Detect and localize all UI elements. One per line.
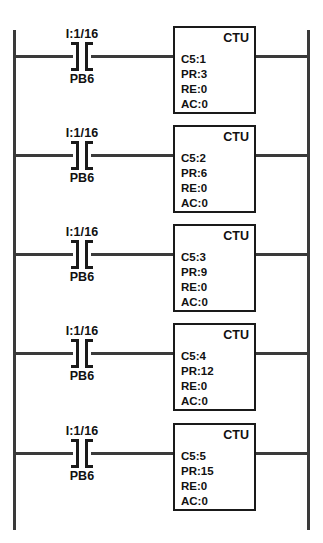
rung-wire-middle — [91, 452, 174, 455]
rung-wire-right — [255, 55, 308, 58]
ctu-counter-value: C5:5 — [181, 449, 214, 464]
ladder-rung: I:1/16 PB6 CTU C5:2 PR:6 RE:0 AC:0 — [0, 130, 323, 230]
ladder-rung: I:1/16 PB6 CTU C5:5 PR:15 RE:0 AC:0 — [0, 428, 323, 528]
contact-tick-top-left — [71, 439, 77, 442]
ctu-parameter-list: C5:1 PR:3 RE:0 AC:0 — [181, 52, 208, 112]
ctu-type-label: CTU — [223, 130, 249, 144]
rung-wire-left — [14, 352, 73, 355]
ctu-parameter-list: C5:4 PR:12 RE:0 AC:0 — [181, 349, 214, 409]
contact-tick-bottom-right — [87, 465, 93, 468]
contact-tick-bottom-right — [87, 167, 93, 170]
rung-wire-right — [255, 352, 308, 355]
contact-tick-top-left — [71, 240, 77, 243]
ctu-counter-value: C5:2 — [181, 151, 208, 166]
contact-name-label: PB6 — [0, 171, 164, 185]
rung-wire-left — [14, 253, 73, 256]
ctu-parameter-list: C5:5 PR:15 RE:0 AC:0 — [181, 449, 214, 509]
contact-address-label: I:1/16 — [0, 424, 164, 438]
contact-tick-top-right — [87, 141, 93, 144]
rung-wire-right — [255, 154, 308, 157]
ctu-accumulator-value: AC:0 — [181, 295, 208, 310]
contact-tick-bottom-left — [71, 465, 77, 468]
contact-tick-bottom-right — [87, 365, 93, 368]
ctu-preset-value: PR:12 — [181, 364, 214, 379]
ladder-rung: I:1/16 PB6 CTU C5:4 PR:12 RE:0 AC:0 — [0, 328, 323, 428]
ctu-instruction-block[interactable]: CTU C5:5 PR:15 RE:0 AC:0 — [173, 423, 256, 511]
ctu-instruction-block[interactable]: CTU C5:2 PR:6 RE:0 AC:0 — [173, 125, 256, 213]
normally-open-contact-icon[interactable] — [71, 240, 93, 269]
rung-wire-right — [255, 452, 308, 455]
ctu-reset-value: RE:0 — [181, 379, 214, 394]
contact-bar-left — [76, 42, 79, 71]
contact-bar-left — [76, 339, 79, 368]
rung-wire-left — [14, 55, 73, 58]
contact-tick-bottom-right — [87, 266, 93, 269]
contact-address-label: I:1/16 — [0, 324, 164, 338]
ctu-instruction-block[interactable]: CTU C5:1 PR:3 RE:0 AC:0 — [173, 26, 256, 114]
ladder-rung: I:1/16 PB6 CTU C5:3 PR:9 RE:0 AC:0 — [0, 229, 323, 329]
contact-tick-top-left — [71, 339, 77, 342]
ctu-instruction-block[interactable]: CTU C5:3 PR:9 RE:0 AC:0 — [173, 224, 256, 312]
ctu-type-label: CTU — [223, 328, 249, 342]
normally-open-contact-icon[interactable] — [71, 42, 93, 71]
contact-bar-right — [85, 141, 88, 170]
ctu-accumulator-value: AC:0 — [181, 196, 208, 211]
contact-name-label: PB6 — [0, 270, 164, 284]
normally-open-contact-icon[interactable] — [71, 339, 93, 368]
contact-name-label: PB6 — [0, 469, 164, 483]
ctu-accumulator-value: AC:0 — [181, 97, 208, 112]
rung-wire-left — [14, 452, 73, 455]
ctu-reset-value: RE:0 — [181, 479, 214, 494]
contact-name-label: PB6 — [0, 369, 164, 383]
contact-tick-bottom-right — [87, 68, 93, 71]
ctu-preset-value: PR:6 — [181, 166, 208, 181]
ctu-counter-value: C5:3 — [181, 250, 208, 265]
contact-bar-right — [85, 42, 88, 71]
contact-bar-right — [85, 439, 88, 468]
normally-open-contact-icon[interactable] — [71, 141, 93, 170]
ctu-reset-value: RE:0 — [181, 280, 208, 295]
contact-tick-top-left — [71, 141, 77, 144]
contact-bar-left — [76, 141, 79, 170]
ctu-type-label: CTU — [223, 31, 249, 45]
ctu-parameter-list: C5:2 PR:6 RE:0 AC:0 — [181, 151, 208, 211]
rung-wire-middle — [91, 253, 174, 256]
ladder-logic-diagram: I:1/16 PB6 CTU C5:1 PR:3 RE:0 AC:0 I:1/1… — [0, 0, 323, 543]
ctu-preset-value: PR:15 — [181, 464, 214, 479]
ctu-parameter-list: C5:3 PR:9 RE:0 AC:0 — [181, 250, 208, 310]
contact-tick-top-right — [87, 240, 93, 243]
contact-address-label: I:1/16 — [0, 225, 164, 239]
contact-address-label: I:1/16 — [0, 126, 164, 140]
contact-tick-top-left — [71, 42, 77, 45]
contact-tick-bottom-left — [71, 167, 77, 170]
ctu-accumulator-value: AC:0 — [181, 494, 214, 509]
ctu-reset-value: RE:0 — [181, 181, 208, 196]
ctu-accumulator-value: AC:0 — [181, 394, 214, 409]
contact-tick-top-right — [87, 42, 93, 45]
contact-tick-bottom-left — [71, 266, 77, 269]
ctu-instruction-block[interactable]: CTU C5:4 PR:12 RE:0 AC:0 — [173, 323, 256, 411]
rung-wire-right — [255, 253, 308, 256]
rung-wire-middle — [91, 55, 174, 58]
ladder-rung: I:1/16 PB6 CTU C5:1 PR:3 RE:0 AC:0 — [0, 31, 323, 131]
ctu-preset-value: PR:9 — [181, 265, 208, 280]
contact-tick-top-right — [87, 439, 93, 442]
contact-tick-top-right — [87, 339, 93, 342]
contact-bar-right — [85, 339, 88, 368]
ctu-preset-value: PR:3 — [181, 67, 208, 82]
normally-open-contact-icon[interactable] — [71, 439, 93, 468]
rung-wire-middle — [91, 154, 174, 157]
contact-address-label: I:1/16 — [0, 27, 164, 41]
ctu-type-label: CTU — [223, 428, 249, 442]
ctu-type-label: CTU — [223, 229, 249, 243]
contact-name-label: PB6 — [0, 72, 164, 86]
ctu-counter-value: C5:1 — [181, 52, 208, 67]
contact-bar-right — [85, 240, 88, 269]
rung-wire-left — [14, 154, 73, 157]
contact-tick-bottom-left — [71, 68, 77, 71]
contact-bar-left — [76, 240, 79, 269]
rung-wire-middle — [91, 352, 174, 355]
contact-tick-bottom-left — [71, 365, 77, 368]
contact-bar-left — [76, 439, 79, 468]
ctu-counter-value: C5:4 — [181, 349, 214, 364]
